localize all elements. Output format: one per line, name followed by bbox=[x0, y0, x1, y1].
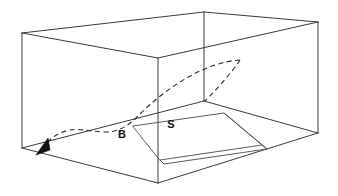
floor-slab bbox=[133, 113, 267, 164]
trajectory-arrowhead-icon bbox=[36, 138, 50, 155]
top-edge-front-right bbox=[158, 22, 318, 58]
floor-edge-front-right bbox=[158, 133, 318, 183]
top-edge-back-left bbox=[22, 12, 204, 33]
box-wireframe bbox=[22, 12, 318, 183]
floor-edge-front-left bbox=[22, 148, 158, 183]
slab-thickness-bottom bbox=[160, 149, 267, 164]
wireframe-room-diagram: B S bbox=[0, 0, 338, 196]
label-s: S bbox=[167, 118, 174, 130]
slab-thickness-right bbox=[224, 113, 267, 149]
top-edge-back-right bbox=[204, 12, 318, 22]
trajectory-group bbox=[36, 60, 240, 155]
floor-edge-back-right bbox=[204, 101, 318, 133]
label-b: B bbox=[118, 128, 126, 140]
figure-canvas: B S bbox=[0, 0, 338, 196]
top-edge-front-left bbox=[22, 33, 158, 58]
